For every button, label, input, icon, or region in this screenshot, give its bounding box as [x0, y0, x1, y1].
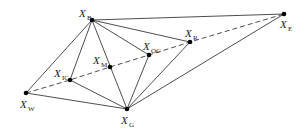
label-m: X — [92, 54, 101, 66]
label-subscript-g: G — [129, 121, 134, 129]
label-w: X — [19, 98, 28, 110]
label-b: X — [78, 7, 87, 19]
point-g — [125, 107, 130, 112]
label-subscript-e: E — [288, 25, 292, 33]
label-subscript-w: W — [28, 105, 35, 113]
edge-b-w — [26, 20, 92, 93]
edge-b-e — [92, 14, 284, 20]
label-subscript-m: M — [101, 61, 108, 69]
point-r — [188, 40, 193, 45]
label-subscript-b: B — [87, 14, 92, 22]
label-r: X — [184, 27, 193, 39]
point-w — [24, 91, 29, 96]
solid-edges — [26, 14, 284, 109]
point-m — [108, 65, 113, 70]
edge-b-ic — [70, 20, 92, 80]
label-subscript-oc: OC — [151, 47, 161, 55]
points — [24, 12, 287, 112]
point-labels: XBXWXGXEXRXICXOCXM — [19, 7, 292, 129]
label-ic: X — [53, 67, 62, 79]
label-subscript-ic: IC — [62, 74, 69, 82]
label-g: X — [120, 114, 129, 126]
label-oc: X — [142, 40, 151, 52]
label-e: X — [279, 18, 288, 30]
edge-b-r — [92, 20, 190, 42]
edge-g-oc — [127, 55, 149, 109]
point-e — [282, 12, 287, 17]
geometry-diagram: XBXWXGXEXRXICXOCXM — [0, 0, 306, 132]
edge-g-e — [127, 14, 284, 109]
edge-b-oc — [92, 20, 149, 55]
label-subscript-r: R — [193, 34, 198, 42]
